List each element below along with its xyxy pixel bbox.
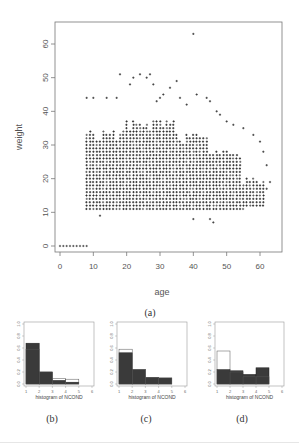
- svg-text:60: 60: [256, 262, 265, 271]
- histogram-xlabel: histogram of NCOND: [35, 394, 83, 400]
- svg-text:0.4: 0.4: [109, 356, 114, 362]
- svg-text:0.6: 0.6: [16, 344, 21, 350]
- svg-text:0.8: 0.8: [207, 332, 212, 338]
- svg-text:40: 40: [41, 106, 50, 115]
- svg-text:0.0: 0.0: [109, 380, 114, 386]
- svg-text:0.4: 0.4: [16, 356, 21, 362]
- svg-text:1.0: 1.0: [109, 320, 114, 326]
- svg-text:10: 10: [41, 207, 50, 216]
- x-axis-title: age: [154, 287, 169, 297]
- x-axis: 0102030405060: [58, 252, 265, 271]
- caption-d: (d): [236, 413, 248, 425]
- svg-text:60: 60: [41, 39, 50, 48]
- svg-text:0: 0: [58, 262, 63, 271]
- histogram-panel-b: 0.00.20.40.60.81.0123456histogram of NCO…: [16, 320, 94, 400]
- svg-text:50: 50: [41, 73, 50, 82]
- svg-text:1: 1: [25, 389, 28, 394]
- svg-text:6: 6: [91, 389, 94, 394]
- svg-text:0.0: 0.0: [16, 380, 21, 386]
- histogram-xlabel: histogram of NCOND: [128, 394, 176, 400]
- y-axis-title: weight: [14, 123, 24, 151]
- svg-text:1.0: 1.0: [16, 320, 21, 326]
- svg-text:40: 40: [189, 262, 198, 271]
- svg-text:0.8: 0.8: [109, 332, 114, 338]
- svg-text:6: 6: [184, 389, 187, 394]
- svg-text:0.2: 0.2: [16, 368, 21, 374]
- scatter-points: [59, 33, 271, 247]
- figure: 0102030405060 0102030405060 weight age (…: [0, 0, 299, 447]
- svg-text:0.0: 0.0: [207, 380, 212, 386]
- histogram-panel-c: 0.00.20.40.60.81.0123456histogram of NCO…: [109, 320, 187, 400]
- svg-text:0.6: 0.6: [109, 344, 114, 350]
- y-axis: 0102030405060: [41, 39, 55, 248]
- svg-text:0.6: 0.6: [207, 344, 212, 350]
- svg-text:30: 30: [41, 140, 50, 149]
- svg-text:50: 50: [222, 262, 231, 271]
- svg-text:0.8: 0.8: [16, 332, 21, 338]
- svg-text:1.0: 1.0: [207, 320, 212, 326]
- svg-text:20: 20: [122, 262, 131, 271]
- svg-text:30: 30: [156, 262, 165, 271]
- histogram-xlabel: histogram of NCOND: [226, 394, 274, 400]
- histogram-panel-d: 0.00.20.40.60.81.0123456histogram of NCO…: [207, 320, 284, 400]
- caption-b: (b): [46, 413, 58, 425]
- caption-a: (a): [144, 307, 155, 319]
- svg-text:0.2: 0.2: [109, 368, 114, 374]
- svg-text:20: 20: [41, 174, 50, 183]
- svg-text:1: 1: [216, 389, 219, 394]
- svg-text:0.4: 0.4: [207, 356, 212, 362]
- svg-text:6: 6: [281, 389, 284, 394]
- svg-text:0: 0: [41, 243, 50, 248]
- svg-text:0.2: 0.2: [207, 368, 212, 374]
- caption-c: (c): [140, 413, 151, 425]
- scatter-panel-a: 0102030405060 0102030405060 weight age (…: [14, 22, 282, 319]
- svg-text:10: 10: [89, 262, 98, 271]
- svg-text:1: 1: [118, 389, 121, 394]
- plot-frame: [55, 22, 282, 252]
- page-divider: [0, 442, 299, 443]
